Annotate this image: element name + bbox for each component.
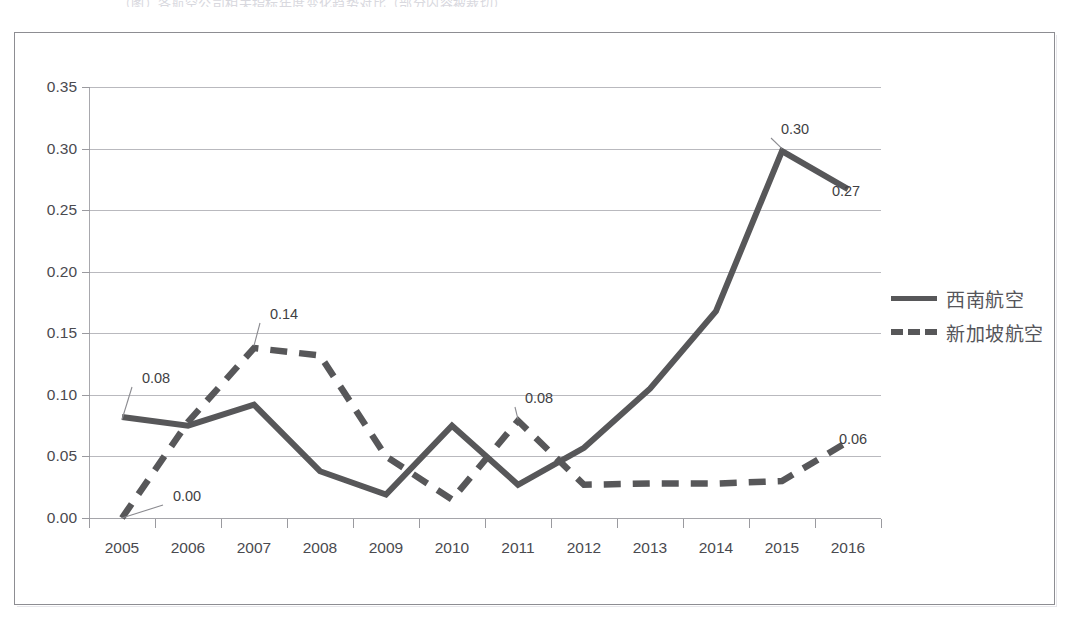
x-tick [881, 519, 882, 528]
x-axis-tick-label: 2013 [615, 539, 685, 557]
legend-item-label: 西南航空 [946, 285, 1024, 312]
x-tick [551, 519, 552, 528]
chart-legend: 西南航空新加坡航空 [891, 281, 1041, 349]
legend-item-1[interactable]: 西南航空 [891, 281, 1041, 315]
x-axis-tick-label: 2009 [351, 539, 421, 557]
x-tick [221, 519, 222, 528]
x-axis-tick-label: 2015 [747, 539, 817, 557]
legend-swatch-solid-line-icon [891, 296, 937, 301]
y-tick-0.10 [82, 395, 90, 396]
data-point-label: 0.08 [142, 370, 170, 386]
series-line-1 [122, 151, 848, 495]
data-point-label: 0.30 [781, 121, 809, 137]
annotation-leader-line [254, 323, 260, 346]
y-tick-0.05 [82, 456, 90, 457]
y-tick-0.15 [82, 333, 90, 334]
x-tick [683, 519, 684, 528]
x-tick [419, 519, 420, 528]
x-tick [287, 519, 288, 528]
x-tick [815, 519, 816, 528]
legend-swatch-dashed-line-icon [891, 329, 937, 335]
x-axis-tick-label: 2005 [87, 539, 157, 557]
x-tick [353, 519, 354, 528]
x-tick [89, 519, 90, 528]
x-axis-tick-label: 2014 [681, 539, 751, 557]
data-point-label: 0.08 [525, 390, 553, 406]
data-point-label: 0.00 [173, 488, 201, 504]
y-tick-0.20 [82, 272, 90, 273]
legend-item-label: 新加坡航空 [946, 319, 1044, 346]
x-axis-tick-label: 2006 [153, 539, 223, 557]
x-axis-tick-label: 2007 [219, 539, 289, 557]
data-point-label: 0.14 [270, 306, 298, 322]
annotation-leader-line [122, 387, 132, 419]
x-axis-tick-label: 2008 [285, 539, 355, 557]
y-tick-0.25 [82, 210, 90, 211]
annotation-leader-line [771, 138, 782, 149]
data-point-label: 0.27 [832, 183, 860, 199]
legend-item-2[interactable]: 新加坡航空 [891, 315, 1041, 349]
series-line-2 [122, 348, 848, 518]
cropped-caption-text: （图）各航空公司相关指标年度变化趋势对比（部分内容被裁切） [118, 0, 878, 7]
y-tick-0.35 [82, 87, 90, 88]
x-tick [485, 519, 486, 528]
x-axis-tick-label: 2010 [417, 539, 487, 557]
x-tick [617, 519, 618, 528]
data-point-label: 0.06 [839, 431, 867, 447]
x-axis-tick-label: 2016 [813, 539, 883, 557]
chart-frame: 0.000.050.100.150.200.250.300.35 西南航空新加坡… [14, 32, 1055, 605]
x-tick [155, 519, 156, 528]
x-tick [749, 519, 750, 528]
y-tick-0.30 [82, 149, 90, 150]
x-axis-tick-label: 2012 [549, 539, 619, 557]
x-axis-tick-label: 2011 [483, 539, 553, 557]
